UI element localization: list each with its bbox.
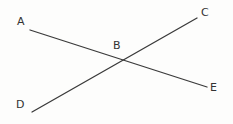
point-label-c: C [201,7,209,18]
diagram-svg [0,0,233,124]
geometry-diagram: A B C D E [0,0,233,124]
point-label-e: E [210,82,217,93]
line-segment-dc [32,18,197,112]
point-label-a: A [17,16,25,27]
point-label-d: D [16,99,25,110]
point-label-b: B [113,40,121,51]
